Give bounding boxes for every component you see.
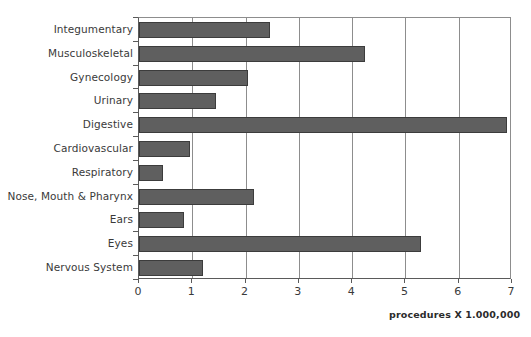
y-axis-tick: [133, 208, 138, 209]
category-label: Respiratory: [72, 160, 133, 184]
bar[interactable]: [139, 189, 254, 205]
bar[interactable]: [139, 236, 421, 252]
bar-row: [139, 209, 510, 233]
category-label: Ears: [110, 208, 133, 232]
x-axis-tick: [245, 279, 246, 283]
bar[interactable]: [139, 93, 216, 109]
x-axis-tick: [351, 279, 352, 283]
bar-row: [139, 113, 510, 137]
bar[interactable]: [139, 22, 270, 38]
bar-row: [139, 161, 510, 185]
y-axis-tick: [133, 160, 138, 161]
category-label: Eyes: [108, 231, 133, 255]
bar-row: [139, 18, 510, 42]
y-axis-tick: [133, 112, 138, 113]
category-label: Digestive: [83, 112, 133, 136]
bar-row: [139, 66, 510, 90]
x-axis-tick-label: 7: [499, 285, 523, 298]
x-axis-tick: [138, 279, 139, 283]
bar[interactable]: [139, 70, 248, 86]
category-label: Cardiovascular: [53, 136, 133, 160]
y-axis-tick: [133, 17, 138, 18]
category-axis-labels: IntegumentaryMusculoskeletalGynecologyUr…: [0, 17, 133, 279]
bar-row: [139, 185, 510, 209]
bar[interactable]: [139, 117, 507, 133]
category-label: Integumentary: [54, 17, 133, 41]
plot-area: [138, 17, 511, 279]
x-axis-tick-label: 0: [126, 285, 150, 298]
x-axis-tick: [458, 279, 459, 283]
bar[interactable]: [139, 165, 163, 181]
y-axis-tick: [133, 231, 138, 232]
x-axis-tick: [298, 279, 299, 283]
y-axis-tick: [133, 279, 138, 280]
bar-row: [139, 89, 510, 113]
bar-row: [139, 232, 510, 256]
bar-chart-figure: IntegumentaryMusculoskeletalGynecologyUr…: [0, 0, 531, 337]
x-axis-tick-label: 4: [339, 285, 363, 298]
bar[interactable]: [139, 141, 190, 157]
bar-rows: [139, 18, 510, 278]
category-label: Nervous System: [46, 255, 133, 279]
y-axis-tick: [133, 136, 138, 137]
x-axis-tick-label: 2: [233, 285, 257, 298]
y-axis-tick: [133, 65, 138, 66]
x-axis-tick-label: 1: [179, 285, 203, 298]
x-axis-tick: [511, 279, 512, 283]
bar-row: [139, 42, 510, 66]
y-axis-tick: [133, 41, 138, 42]
category-label: Gynecology: [70, 65, 133, 89]
bar[interactable]: [139, 212, 184, 228]
y-axis-tick: [133, 255, 138, 256]
y-axis-tick: [133, 88, 138, 89]
x-axis-tick-label: 6: [446, 285, 470, 298]
y-axis-tick: [133, 184, 138, 185]
category-label: Nose, Mouth & Pharynx: [7, 184, 133, 208]
bar-row: [139, 137, 510, 161]
x-axis-tick-label: 3: [286, 285, 310, 298]
chart-caption: procedures X 1.000,000: [389, 309, 520, 320]
category-label: Urinary: [94, 88, 133, 112]
category-label: Musculoskeletal: [48, 41, 133, 65]
bar-row: [139, 256, 510, 280]
bar[interactable]: [139, 46, 365, 62]
x-axis-tick-label: 5: [392, 285, 416, 298]
bar[interactable]: [139, 260, 203, 276]
x-axis-tick: [404, 279, 405, 283]
x-axis-tick: [191, 279, 192, 283]
